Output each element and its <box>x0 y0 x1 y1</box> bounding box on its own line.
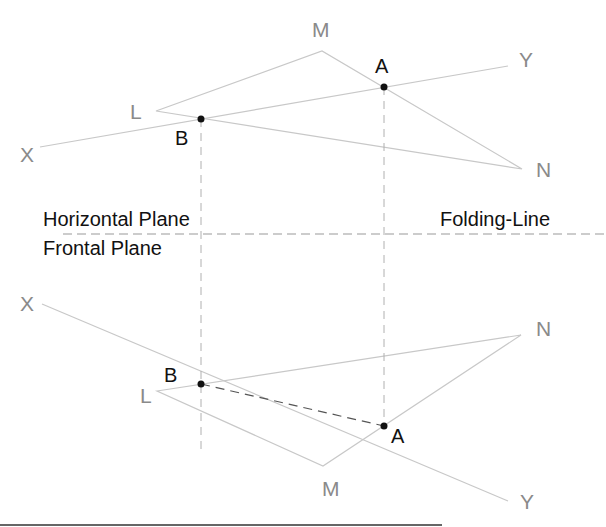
label-b-top: B <box>175 128 188 148</box>
label-folding-line: Folding-Line <box>440 209 550 229</box>
plane-lmn-front <box>157 335 521 466</box>
label-m-top: M <box>312 19 330 40</box>
label-x-front: X <box>20 293 34 314</box>
line-xy-top <box>40 66 508 147</box>
label-m-front: M <box>322 478 340 499</box>
label-y-top: Y <box>519 49 533 70</box>
label-a-top: A <box>375 56 388 76</box>
point-b-front <box>198 381 205 388</box>
label-n-front: N <box>536 318 551 339</box>
label-y-front: Y <box>520 491 534 512</box>
label-horizontal-plane: Horizontal Plane <box>43 209 190 229</box>
label-l-front: L <box>140 385 152 406</box>
front-view <box>42 304 521 501</box>
label-n-top: N <box>536 159 551 180</box>
label-x-top: X <box>20 144 34 165</box>
label-l-top: L <box>130 101 142 122</box>
line-xy-front <box>42 304 508 501</box>
label-b-front: B <box>164 365 177 385</box>
hidden-segment-ab <box>201 384 384 426</box>
point-b-top <box>198 116 205 123</box>
point-a-top <box>381 84 388 91</box>
label-frontal-plane: Frontal Plane <box>43 238 162 258</box>
plane-lmn-top <box>156 51 522 169</box>
label-a-front: A <box>391 426 404 446</box>
top-view <box>40 51 522 169</box>
diagram-canvas <box>0 0 606 527</box>
point-a-front <box>381 423 388 430</box>
